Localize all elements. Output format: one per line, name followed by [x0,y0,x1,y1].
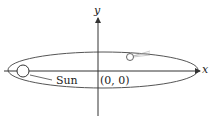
x-axis-label: x [202,64,208,75]
sun-label: Sun [56,75,78,86]
diagram-canvas [0,0,210,118]
orbit-diagram: y x Sun (0, 0) [0,0,210,118]
origin-label: (0, 0) [100,75,130,86]
y-axis-label: y [94,5,100,16]
sun-leader-line [30,75,52,80]
sun-icon [17,65,29,77]
